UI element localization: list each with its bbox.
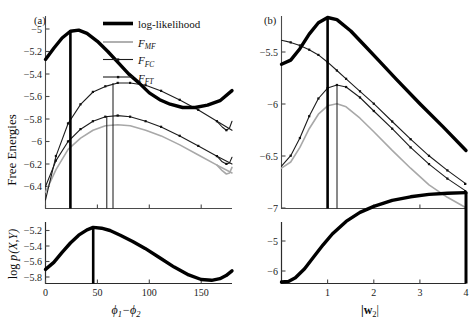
panel-a-top-ytick-7: −6.4 — [24, 181, 42, 192]
panel-a-xtick-1: 50 — [92, 287, 102, 298]
series-f-ft-panel-b-markers — [290, 41, 467, 185]
panel-a-top-xticks — [46, 205, 202, 209]
panel-b-top-xticks — [328, 205, 466, 209]
panel-a-bottom-ytick-1: −5.4 — [24, 241, 42, 252]
panel-b-top-ytick-1: −6 — [267, 99, 278, 110]
legend-label-f-fc: FFC — [137, 54, 155, 69]
panel-b-top-ytick-0: −5.5 — [260, 47, 278, 58]
panel-b-xtick-2: 3 — [417, 287, 422, 298]
panel-a-top-ytick-5: −6 — [31, 136, 42, 147]
series-f-fc-panel-a — [46, 116, 233, 187]
panel-a-tag: (a) — [34, 15, 46, 27]
panel-a-xtick-2: 100 — [142, 287, 157, 298]
panel-b-xtick-3: 4 — [464, 287, 469, 298]
panel-b-bottom-ytick-1: −6 — [267, 266, 278, 277]
panel-b-xtick-1: 2 — [371, 287, 376, 298]
legend-marker-f-fc — [117, 58, 119, 60]
panel-b-top-ytick-3: −7 — [267, 203, 278, 214]
panel-a-top-ytick-3: −5.6 — [24, 91, 42, 102]
series-log-joint-panel-a — [46, 227, 233, 280]
panel-a-top-ytick-1: −5.2 — [24, 46, 42, 57]
legend-marker-f-ft — [117, 76, 119, 78]
panel-a-top-ytick-6: −6.2 — [24, 159, 42, 170]
panel-b-top-ytick-2: −6.5 — [260, 151, 278, 162]
legend-label-log-likelihood: log-likelihood — [138, 18, 201, 30]
ylabel-free-energies: Free Energies — [4, 114, 19, 186]
panel-b-tag: (b) — [264, 15, 277, 27]
panel-a-xtick-3: 150 — [194, 287, 209, 298]
series-f-mf-panel-a — [46, 125, 233, 192]
legend-label-f-mf: FMF — [137, 37, 156, 52]
panel-a-top-ytick-4: −5.8 — [24, 114, 42, 125]
series-log-joint-panel-b — [282, 193, 467, 282]
panel-a-bottom-ytick-2: −5.6 — [24, 256, 42, 267]
xlabel-panel-b: |w2| — [361, 303, 379, 319]
series-f-fc-panel-b — [282, 85, 467, 191]
free-energy-figure: −5 −5.2 −5.4 −5.6 −5.8 −6 −6.2 −6.4 — [0, 0, 472, 324]
panel-a-bottom: −5.2 −5.4 −5.6 −5.8 0 50 100 150 — [24, 222, 232, 298]
panel-b-top-yticks — [282, 52, 286, 208]
panel-a-bottom-ytick-3: −5.8 — [24, 272, 42, 283]
series-f-fc-panel-b-markers — [290, 84, 467, 192]
series-f-ft-panel-a — [46, 83, 233, 200]
panel-b-bottom-ytick-0: −5 — [267, 236, 278, 247]
figure-container: −5 −5.2 −5.4 −5.6 −5.8 −6 −6.2 −6.4 — [0, 0, 472, 324]
legend: log-likelihood FMF FFC FFT — [103, 18, 201, 87]
panel-a-bottom-ytick-0: −5.2 — [24, 225, 42, 236]
ylabel-log-joint: logp(X,Y) — [6, 229, 20, 279]
xlabel-panel-a: ϕ1−ϕ2 — [111, 303, 141, 319]
panel-a-xtick-0: 0 — [43, 287, 48, 298]
panel-b-top: −5.5 −6 −6.5 −7 — [260, 15, 466, 214]
panel-a-top: −5 −5.2 −5.4 −5.6 −5.8 −6 −6.2 −6.4 — [24, 15, 232, 209]
panel-b-xtick-0: 1 — [325, 287, 330, 298]
panel-a-top-ytick-2: −5.4 — [24, 69, 42, 80]
